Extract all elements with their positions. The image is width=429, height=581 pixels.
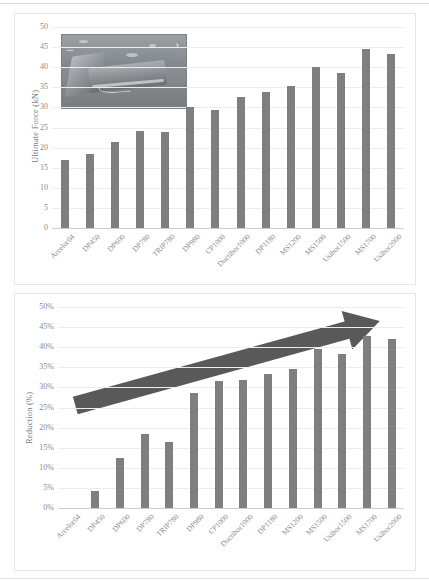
chart-gridline: [58, 488, 404, 489]
chart-gridline: [52, 27, 404, 28]
y-axis-tick-label: 45%: [39, 323, 54, 331]
bar: [111, 142, 119, 228]
y-axis-tick-label: 40: [40, 63, 48, 71]
figure-root: Ultimate Force (kN) ━━ ❯ 051015202530354…: [0, 0, 429, 581]
bar: [186, 107, 194, 228]
bar: [314, 349, 322, 508]
bar: [237, 97, 245, 228]
chart-gridline: [52, 208, 404, 209]
y-axis-tick-label: 5%: [43, 484, 54, 492]
bar: [91, 491, 99, 508]
chart-gridline: [58, 408, 404, 409]
bar: [165, 442, 173, 508]
bar: [211, 110, 219, 228]
y-axis-tick-label: 25: [40, 124, 48, 132]
bar: [141, 434, 149, 508]
chart-ultimate-force: Ultimate Force (kN) ━━ ❯ 051015202530354…: [14, 13, 416, 285]
chart-gridline: [52, 87, 404, 88]
bar: [338, 354, 346, 508]
bar: [264, 374, 272, 508]
y-axis-tick-label: 15%: [39, 444, 54, 452]
chart-gridline: [52, 148, 404, 149]
y-axis-tick-label: 40%: [39, 343, 54, 351]
bar: [262, 92, 270, 228]
chart-gridline: [58, 468, 404, 469]
bar: [61, 160, 69, 228]
chart-gridline: [52, 67, 404, 68]
y-axis-tick-label: 20: [40, 144, 48, 152]
bar: [362, 49, 370, 228]
chart-reduction: Reduction (%) 0%5%10%15%20%25%30%35%40%4…: [14, 293, 416, 571]
y-axis-tick-label: 10: [40, 184, 48, 192]
chart-gridline: [52, 128, 404, 129]
y-axis-tick-label: 15: [40, 164, 48, 172]
chart-gridline: [58, 428, 404, 429]
bar: [363, 336, 371, 508]
chart-gridline: [52, 47, 404, 48]
bar: [161, 132, 169, 228]
y-axis-tick-label: 35%: [39, 363, 54, 371]
chart-gridline: [58, 508, 404, 509]
bar: [239, 380, 247, 508]
bar: [289, 369, 297, 508]
figure-bottom-divider: [0, 578, 429, 579]
chart-gridline: [58, 307, 404, 308]
bar: [312, 67, 320, 228]
chart-gridline: [58, 448, 404, 449]
bar: [387, 54, 395, 228]
y-axis-tick-label: 35: [40, 83, 48, 91]
chart-top-y-axis-label: Ultimate Force (kN): [30, 51, 40, 201]
bar: [116, 458, 124, 508]
chart-gridline: [52, 188, 404, 189]
bar: [215, 381, 223, 508]
y-axis-tick-label: 50: [40, 23, 48, 31]
y-axis-tick-label: 0%: [43, 504, 54, 512]
y-axis-tick-label: 50%: [39, 303, 54, 311]
bar: [136, 131, 144, 228]
chart-gridline: [58, 327, 404, 328]
figure-top-divider: [0, 3, 429, 4]
chart-gridline: [52, 168, 404, 169]
bar: [86, 154, 94, 228]
y-axis-tick-label: 45: [40, 43, 48, 51]
chart-gridline: [52, 228, 404, 229]
chart-gridline: [58, 387, 404, 388]
y-axis-tick-label: 30: [40, 103, 48, 111]
y-axis-tick-label: 10%: [39, 464, 54, 472]
y-axis-tick-label: 30%: [39, 383, 54, 391]
bent-metal-specimen-photo: ━━ ❯: [61, 34, 187, 109]
chart-gridline: [58, 367, 404, 368]
y-axis-tick-label: 25%: [39, 404, 54, 412]
chart-gridline: [52, 107, 404, 108]
bar: [388, 339, 396, 508]
y-axis-tick-label: 20%: [39, 424, 54, 432]
chart-gridline: [58, 347, 404, 348]
y-axis-tick-label: 5: [44, 204, 48, 212]
bar: [287, 86, 295, 228]
y-axis-tick-label: 0: [44, 224, 48, 232]
photo-speck-1: [126, 53, 138, 57]
bar: [337, 73, 345, 228]
bar: [190, 393, 198, 508]
